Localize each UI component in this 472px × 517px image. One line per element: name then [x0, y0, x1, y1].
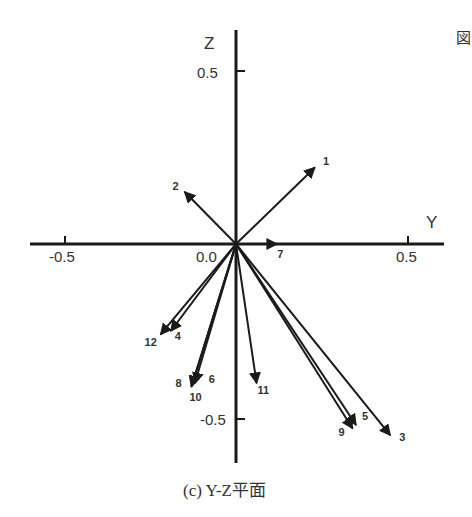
vector-label-8: 8: [175, 377, 181, 389]
vector-label-2: 2: [173, 180, 179, 192]
vector-label-9: 9: [339, 426, 345, 438]
y-tick-label-neg: -0.5: [49, 248, 75, 265]
y-axis-label: Y: [426, 213, 437, 232]
z-tick-label-pos: 0.5: [197, 64, 218, 81]
z-tick-label-neg: -0.5: [200, 411, 226, 428]
vector-label-7: 7: [277, 248, 283, 260]
vector-label-11: 11: [258, 384, 270, 396]
figure-caption: (c) Y-Z平面: [183, 476, 266, 501]
origin-label: 0.0: [196, 248, 217, 265]
vector-arrow-9: [236, 244, 353, 428]
vector-arrow-3: [236, 244, 390, 435]
vector-label-group: 123456789101112: [145, 155, 406, 443]
vector-label-3: 3: [399, 431, 405, 443]
vector-arrow-10: [191, 244, 236, 387]
vector-label-1: 1: [323, 155, 329, 167]
vector-label-12: 12: [145, 336, 157, 348]
figure-mark: 図: [456, 26, 471, 47]
vector-arrow-1: [236, 167, 315, 244]
vector-label-10: 10: [189, 391, 201, 403]
vector-label-4: 4: [175, 330, 182, 342]
vector-label-6: 6: [209, 373, 215, 385]
y-tick-label-pos: 0.5: [396, 248, 417, 265]
z-axis-label: Z: [204, 34, 214, 53]
vector-label-5: 5: [362, 410, 368, 422]
vector-arrow-2: [185, 192, 236, 244]
yz-plane-diagram: Z Y 0.5 -0.5 -0.5 0.0 0.5 12345678910111…: [0, 0, 472, 517]
